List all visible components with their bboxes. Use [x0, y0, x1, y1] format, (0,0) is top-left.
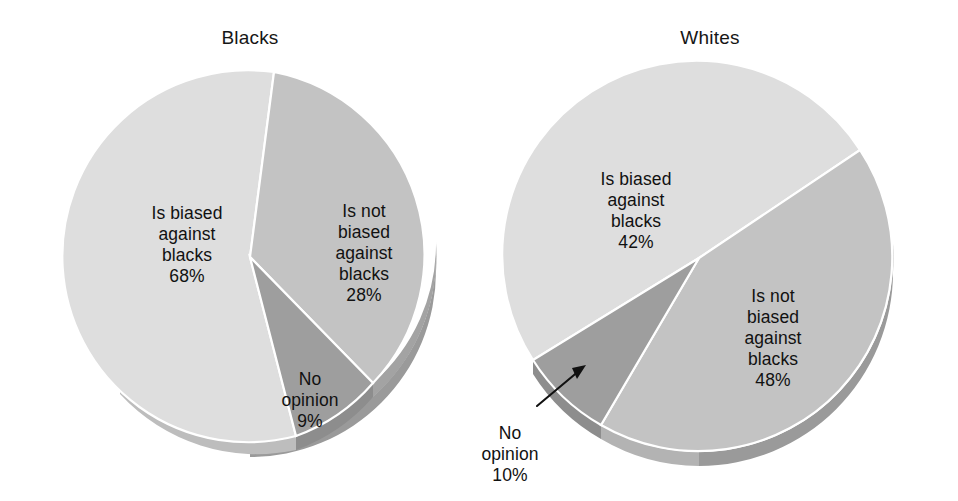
left-label-no-opinion-pct: 9% — [255, 411, 365, 432]
right-label-is-biased-pct: 42% — [561, 232, 711, 253]
right-label-no-opinion-text: No opinion — [481, 423, 538, 464]
chart-title-whites: Whites — [460, 27, 958, 49]
right-label-is-biased: Is biased against blacks 42% — [561, 148, 711, 274]
right-label-no-opinion-pct: 10% — [455, 465, 565, 486]
right-label-no-opinion: No opinion 10% — [455, 402, 565, 501]
left-label-is-not-biased-text: Is not biased against blacks — [335, 201, 392, 284]
left-label-no-opinion-text: No opinion — [281, 369, 338, 410]
left-label-is-biased-text: Is biased against blacks — [152, 203, 223, 265]
right-label-is-not-biased-text: Is not biased against blacks — [744, 286, 801, 369]
right-label-is-not-biased: Is not biased against blacks 48% — [710, 265, 836, 412]
figure-pie-charts: Blacks Whites Is biased against blacks 6… — [0, 0, 958, 501]
left-label-is-biased-pct: 68% — [112, 266, 262, 287]
right-label-is-not-biased-pct: 48% — [710, 370, 836, 391]
right-label-is-biased-text: Is biased against blacks — [601, 169, 672, 231]
left-label-is-biased: Is biased against blacks 68% — [112, 182, 262, 308]
left-label-no-opinion: No opinion 9% — [255, 348, 365, 453]
left-label-is-not-biased-pct: 28% — [302, 285, 426, 306]
chart-title-blacks: Blacks — [0, 27, 500, 49]
left-label-is-not-biased: Is not biased against blacks 28% — [302, 180, 426, 327]
